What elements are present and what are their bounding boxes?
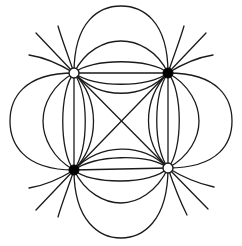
charge-bottom-right-open bbox=[163, 163, 173, 173]
arc-left-c bbox=[63, 73, 74, 170]
arc-right-c bbox=[168, 73, 179, 168]
arc-top-a bbox=[74, 73, 168, 84]
field-lines bbox=[10, 6, 232, 238]
loop-right-inner bbox=[168, 73, 199, 168]
loop-top-inner bbox=[74, 41, 168, 73]
ray-tr-1 bbox=[168, 33, 206, 73]
ray-br-3 bbox=[168, 168, 214, 187]
charge-top-right-filled bbox=[163, 68, 173, 78]
loop-top-outer bbox=[74, 6, 168, 73]
ray-br-1 bbox=[168, 168, 208, 209]
charge-bottom-left-filled bbox=[69, 165, 79, 175]
loop-left-outer bbox=[10, 73, 74, 170]
ray-tl-3 bbox=[29, 55, 74, 73]
field-diagram bbox=[0, 0, 242, 246]
line-bottom bbox=[74, 168, 168, 170]
ray-bl-3 bbox=[29, 170, 74, 188]
ray-tr-3 bbox=[168, 55, 213, 73]
arc-left-a bbox=[74, 73, 85, 170]
loop-bottom-inner bbox=[74, 168, 168, 203]
arc-top-b bbox=[74, 73, 168, 93]
arc-right-a bbox=[157, 73, 168, 168]
arc-right-b bbox=[149, 73, 169, 168]
arc-top-c bbox=[74, 62, 168, 73]
ray-tl-1 bbox=[36, 33, 74, 73]
arc-bottom-b bbox=[74, 149, 168, 170]
loop-left-inner bbox=[43, 73, 74, 170]
arc-left-b bbox=[74, 73, 94, 170]
ray-br-2 bbox=[168, 168, 187, 215]
loop-right-outer bbox=[168, 73, 232, 168]
charge-top-left-open bbox=[69, 68, 79, 78]
ray-bl-1 bbox=[36, 170, 74, 210]
